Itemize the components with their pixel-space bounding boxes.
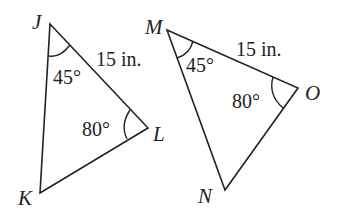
triangle-jkl: J L K 15 in. 45° 80° [17, 10, 165, 210]
side-jl-label: 15 in. [96, 48, 142, 70]
vertex-label-o: O [305, 81, 320, 105]
vertex-label-k: K [17, 186, 33, 210]
vertex-label-n: N [197, 184, 213, 208]
angle-j-label: 45° [53, 66, 81, 88]
vertex-label-l: L [152, 122, 165, 146]
side-mo-label: 15 in. [236, 38, 282, 60]
angle-j-arc [49, 45, 70, 56]
vertex-label-j: J [32, 10, 43, 34]
angle-o-arc [272, 77, 283, 108]
angle-m-label: 45° [186, 54, 214, 76]
triangles-figure: J L K 15 in. 45° 80° M O N 15 in. 45° 80… [0, 0, 341, 218]
angle-l-label: 80° [82, 118, 110, 140]
angle-l-arc [124, 110, 130, 139]
vertex-label-m: M [144, 15, 164, 39]
angle-o-label: 80° [232, 90, 260, 112]
triangle-mno: M O N 15 in. 45° 80° [144, 15, 320, 208]
